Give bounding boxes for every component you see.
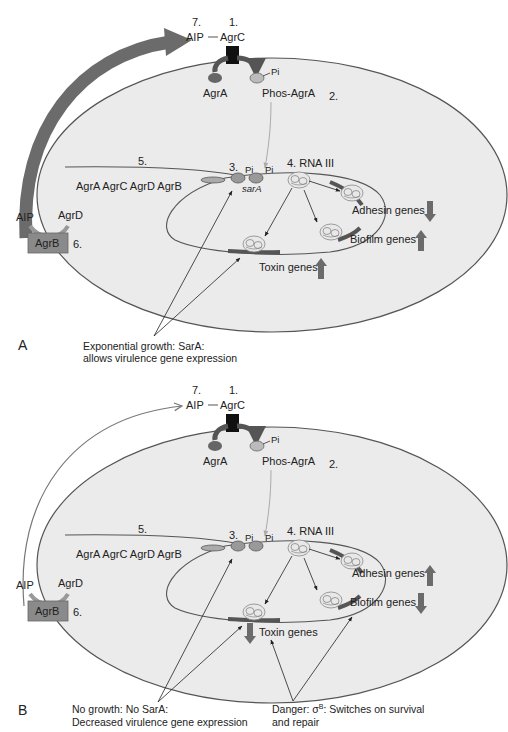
phos-agra-label: Phos-AgrA bbox=[262, 87, 316, 99]
step-2-label: 2. bbox=[329, 458, 338, 470]
step-3-label: 3. bbox=[229, 161, 238, 173]
agrb-label: AgrB bbox=[35, 605, 59, 617]
aip-label: AIP bbox=[186, 399, 204, 411]
agrc-label: AgrC bbox=[220, 399, 245, 411]
agrb-label: AgrB bbox=[35, 237, 59, 249]
step-1-label: 1. bbox=[229, 16, 238, 28]
pi-label: Pi bbox=[271, 434, 279, 445]
step-7-label: 7. bbox=[192, 384, 201, 396]
aip-out-label: AIP bbox=[16, 211, 34, 223]
phos-agra-molecule bbox=[250, 441, 264, 451]
caption-b-left-line1: No growth: No SarA: bbox=[72, 703, 168, 715]
agrd-label: AgrD bbox=[58, 577, 83, 589]
panel-label-b: B bbox=[18, 702, 27, 718]
caption-a-line2: allows virulence gene expression bbox=[83, 352, 237, 364]
rna-iii-label: 4. RNA III bbox=[287, 525, 334, 537]
agrc-receptor bbox=[226, 414, 239, 432]
cell-a bbox=[37, 58, 507, 332]
panel-label-a: A bbox=[18, 337, 28, 353]
step-1-label: 1. bbox=[229, 384, 238, 396]
pi-label-1: Pi bbox=[245, 532, 253, 543]
caption-a-line1: Exponential growth: SarA: bbox=[83, 340, 204, 352]
step-3-label: 3. bbox=[229, 529, 238, 541]
agrd-label: AgrD bbox=[58, 209, 83, 221]
agra-label: AgrA bbox=[203, 455, 228, 467]
caption-b-right-line2: and repair bbox=[272, 716, 320, 728]
agra-label: AgrA bbox=[203, 87, 228, 99]
pi-label-1: Pi bbox=[245, 164, 253, 175]
aip-out-label: AIP bbox=[16, 579, 34, 591]
cell-b bbox=[37, 427, 507, 703]
agr-operon-genes: AgrA AgrC AgrD AgrB bbox=[76, 548, 182, 560]
phos-agra-label: Phos-AgrA bbox=[262, 455, 316, 467]
agra-molecule bbox=[208, 441, 222, 451]
agra-molecule bbox=[208, 73, 222, 83]
step-6-label: 6. bbox=[73, 238, 82, 250]
rna-iii-label: 4. RNA III bbox=[287, 157, 334, 169]
panel-b: 7. 1. AIP AgrC Pi AgrA Phos-AgrA 2. 5. A… bbox=[16, 384, 507, 728]
caption-b-left-line2: Decreased virulence gene expression bbox=[72, 716, 248, 728]
toxin-genes-label: Toxin genes bbox=[259, 261, 318, 273]
agr-operon-genes: AgrA AgrC AgrD AgrB bbox=[76, 180, 182, 192]
agr-quorum-sensing-diagram: 7. 1. AIP AgrC Pi AgrA Phos-AgrA 2. 5. A… bbox=[0, 0, 508, 732]
adhesin-genes-label: Adhesin genes bbox=[352, 204, 425, 216]
pi-label: Pi bbox=[271, 66, 279, 77]
biofilm-genes-label: Biofilm genes bbox=[350, 233, 417, 245]
step-5-label: 5. bbox=[138, 523, 147, 535]
biofilm-genes-label: Biofilm genes bbox=[350, 596, 417, 608]
pi-label-2: Pi bbox=[265, 532, 273, 543]
adhesin-genes-label: Adhesin genes bbox=[352, 567, 425, 579]
agrc-receptor bbox=[226, 46, 239, 64]
toxin-genes-label: Toxin genes bbox=[259, 626, 318, 638]
agrc-label: AgrC bbox=[220, 31, 245, 43]
step-5-label: 5. bbox=[138, 155, 147, 167]
step-6-label: 6. bbox=[73, 606, 82, 618]
sara-label: sarA bbox=[242, 183, 262, 194]
phos-agra-molecule bbox=[250, 73, 264, 83]
caption-b-right-line1: Danger: σB: Switches on survival bbox=[272, 703, 424, 715]
pi-label-2: Pi bbox=[265, 164, 273, 175]
step-7-label: 7. bbox=[192, 16, 201, 28]
aip-label: AIP bbox=[186, 31, 204, 43]
panel-a: 7. 1. AIP AgrC Pi AgrA Phos-AgrA 2. 5. A… bbox=[16, 16, 507, 364]
step-2-label: 2. bbox=[329, 90, 338, 102]
